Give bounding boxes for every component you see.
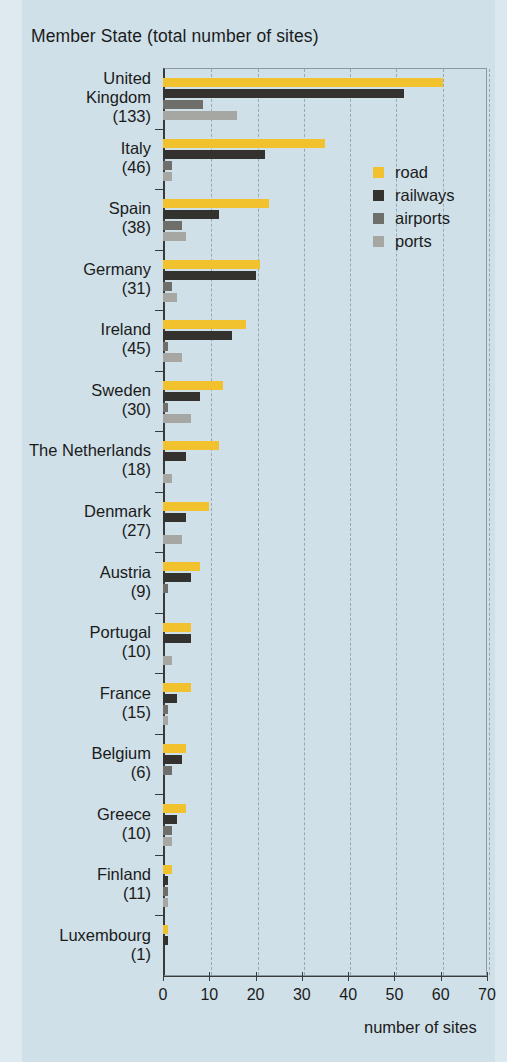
bar-ports	[163, 716, 168, 725]
legend-label: railways	[395, 186, 455, 205]
category-label: Ireland(45)	[101, 320, 151, 358]
category-total-count: (1)	[59, 945, 151, 964]
category-total-count: (45)	[101, 339, 151, 358]
category-name: Ireland	[101, 320, 151, 339]
bar-ports	[163, 232, 186, 241]
bar-airports	[163, 705, 168, 714]
category-total-count: (10)	[97, 824, 151, 843]
chart-page: Member State (total number of sites) Uni…	[0, 0, 507, 1062]
bar-railways	[163, 331, 232, 340]
legend-swatch-railways	[373, 190, 384, 201]
x-axis	[163, 976, 487, 977]
bar-ports	[163, 474, 172, 483]
x-tick-label: 60	[432, 986, 450, 1004]
page-right-margin	[495, 0, 507, 1062]
category-label: UnitedKingdom(133)	[86, 69, 151, 126]
bar-road	[163, 502, 209, 511]
bar-road	[163, 441, 219, 450]
x-tick	[487, 972, 488, 981]
bar-railways	[163, 573, 191, 582]
legend-swatch-airports	[373, 213, 384, 224]
bar-ports	[163, 414, 191, 423]
page-left-margin	[0, 0, 22, 1062]
bar-road	[163, 78, 443, 87]
bar-group	[163, 915, 487, 976]
category-separator-tick	[155, 189, 164, 190]
category-name: Finland	[97, 865, 151, 884]
category-total-count: (9)	[100, 582, 151, 601]
x-axis-title: number of sites	[364, 1018, 477, 1037]
bar-ports	[163, 656, 172, 665]
bar-railways	[163, 392, 200, 401]
bar-ports	[163, 111, 237, 120]
bar-group	[163, 673, 487, 734]
category-total-count: (10)	[90, 642, 151, 661]
category-name: The Netherlands	[29, 441, 151, 460]
category-name: Greece	[97, 805, 151, 824]
bar-airports	[163, 403, 168, 412]
category-name: France	[100, 684, 151, 703]
category-separator-tick	[155, 613, 164, 614]
x-tick	[348, 972, 349, 981]
bar-railways	[163, 815, 177, 824]
category-total-count: (27)	[84, 521, 151, 540]
category-separator-tick	[155, 250, 164, 251]
bar-road	[163, 744, 186, 753]
category-label: Luxembourg(1)	[59, 926, 151, 964]
legend-item: ports	[373, 230, 455, 253]
bar-railways	[163, 452, 186, 461]
bar-airports	[163, 342, 168, 351]
category-separator-tick	[155, 492, 164, 493]
category-label: Belgium(6)	[91, 744, 151, 782]
bar-road	[163, 925, 168, 934]
bar-railways	[163, 271, 256, 280]
x-tick-label: 50	[386, 986, 404, 1004]
bar-railways	[163, 210, 219, 219]
category-label: Austria(9)	[100, 563, 151, 601]
bar-road	[163, 320, 246, 329]
category-total-count: (133)	[86, 107, 151, 126]
category-total-count: (11)	[97, 884, 151, 903]
bar-road	[163, 623, 191, 632]
bar-ports	[163, 353, 182, 362]
category-separator-tick	[155, 794, 164, 795]
category-total-count: (18)	[29, 460, 151, 479]
bar-group	[163, 310, 487, 371]
category-separator-tick	[155, 129, 164, 130]
bar-railways	[163, 936, 168, 945]
category-name: Germany	[83, 260, 151, 279]
legend-swatch-ports	[373, 236, 384, 247]
bar-road	[163, 562, 200, 571]
category-name-line2: Kingdom	[86, 88, 151, 107]
legend-label: ports	[395, 232, 432, 251]
bar-airports	[163, 584, 168, 593]
x-tick-label: 0	[159, 986, 168, 1004]
category-label: Italy(46)	[121, 139, 151, 177]
x-tick	[441, 972, 442, 981]
x-tick-label: 20	[247, 986, 265, 1004]
x-tick-label: 30	[293, 986, 311, 1004]
bar-group	[163, 613, 487, 674]
category-label: The Netherlands(18)	[29, 441, 151, 479]
bar-group	[163, 855, 487, 916]
category-name: Sweden	[91, 381, 151, 400]
bar-airports	[163, 221, 182, 230]
category-label: France(15)	[100, 684, 151, 722]
legend-item: railways	[373, 184, 455, 207]
category-separator-tick	[155, 371, 164, 372]
bar-road	[163, 381, 223, 390]
category-separator-tick	[155, 915, 164, 916]
bar-group	[163, 68, 487, 129]
category-label: Germany(31)	[83, 260, 151, 298]
bar-group	[163, 552, 487, 613]
bar-ports	[163, 293, 177, 302]
bar-railways	[163, 150, 265, 159]
bar-road	[163, 260, 260, 269]
bar-road	[163, 683, 191, 692]
bar-railways	[163, 694, 177, 703]
category-name: Italy	[121, 139, 151, 158]
gridline-70	[489, 69, 491, 975]
category-separator-tick	[155, 673, 164, 674]
category-label: Greece(10)	[97, 805, 151, 843]
x-tick	[256, 972, 257, 981]
